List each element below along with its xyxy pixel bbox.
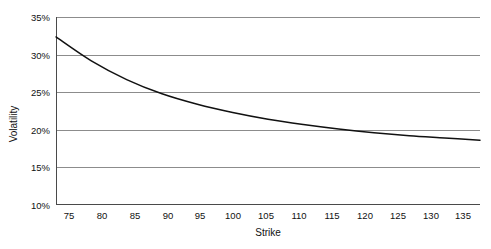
y-axis-title: Volatility — [8, 106, 19, 143]
x-tick-label: 120 — [357, 210, 373, 221]
x-tick-label: 115 — [324, 210, 339, 221]
x-tick-label: 110 — [291, 210, 306, 221]
x-tick-label: 135 — [455, 210, 471, 221]
volatility-skew-chart: 35% 30% 25% 20% 15% 10% 75 80 85 90 95 1… — [0, 0, 491, 249]
y-tick-label: 20% — [31, 125, 51, 136]
y-tick-labels: 35% 30% 25% 20% 15% 10% — [31, 12, 51, 211]
x-tick-labels: 75 80 85 90 95 100 105 110 115 120 125 1… — [64, 210, 471, 221]
y-tick-label: 30% — [31, 50, 51, 61]
x-tick-label: 130 — [423, 210, 439, 221]
volatility-curve — [56, 37, 480, 140]
x-tick-label: 80 — [97, 210, 108, 221]
x-tick-label: 100 — [225, 210, 241, 221]
chart-canvas: 35% 30% 25% 20% 15% 10% 75 80 85 90 95 1… — [0, 0, 491, 249]
x-tick-label: 75 — [64, 210, 75, 221]
y-tick-label: 10% — [31, 200, 51, 211]
x-axis-title: Strike — [255, 227, 281, 238]
x-tick-label: 85 — [130, 210, 141, 221]
y-tick-label: 35% — [31, 12, 51, 23]
gridlines — [56, 18, 480, 168]
y-tick-label: 25% — [31, 87, 51, 98]
x-tick-label: 105 — [258, 210, 274, 221]
y-tick-label: 15% — [31, 162, 51, 173]
x-tick-label: 95 — [195, 210, 206, 221]
x-tick-label: 90 — [163, 210, 174, 221]
x-tick-label: 125 — [390, 210, 406, 221]
